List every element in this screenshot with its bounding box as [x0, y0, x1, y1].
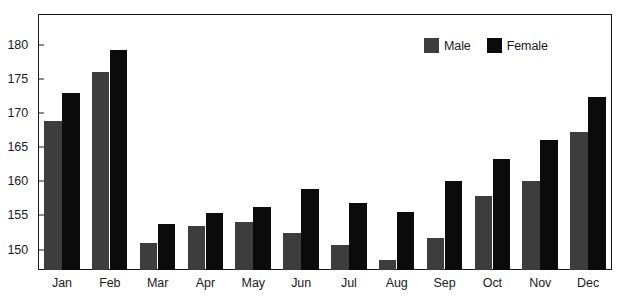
y-tick-mark [38, 249, 44, 250]
bar-sep-male [427, 238, 445, 270]
bar-may-male [235, 222, 253, 270]
bar-mar-female [158, 224, 176, 270]
bar-oct-male [475, 196, 493, 270]
x-tick-label: Mar [147, 276, 168, 290]
bar-nov-female [540, 140, 558, 270]
y-tick-label: 180 [7, 38, 28, 52]
bar-jul-male [331, 245, 349, 270]
bar-feb-male [92, 72, 110, 270]
bar-may-female [253, 207, 271, 270]
bar-group [86, 14, 134, 270]
legend-label-female: Female [507, 39, 548, 53]
x-tick-label: Nov [529, 276, 551, 290]
y-tick-mark [38, 215, 44, 216]
legend-item-female: Female [487, 38, 548, 53]
x-tick-label: Aug [386, 276, 408, 290]
legend-item-male: Male [424, 38, 471, 53]
bar-group [564, 14, 612, 270]
y-tick-label: 155 [7, 208, 28, 222]
bar-jan-male [44, 121, 62, 270]
bar-jun-female [301, 189, 319, 270]
y-tick-label: 150 [7, 243, 28, 257]
legend-label-male: Male [444, 39, 471, 53]
x-tick-label: Oct [483, 276, 502, 290]
bar-group [134, 14, 182, 270]
bar-jan-female [62, 93, 80, 270]
bar-sep-female [445, 181, 463, 270]
bar-dec-male [570, 132, 588, 270]
y-tick-mark [38, 147, 44, 148]
x-tick-label: Feb [99, 276, 120, 290]
legend: Male Female [424, 38, 548, 53]
bar-apr-male [188, 226, 206, 270]
x-tick-label: Jan [52, 276, 72, 290]
y-tick-mark [38, 112, 44, 113]
x-tick-label: Apr [196, 276, 215, 290]
bar-feb-female [110, 50, 128, 270]
bar-jul-female [349, 203, 367, 270]
bar-group [38, 14, 86, 270]
x-tick-label: May [242, 276, 265, 290]
x-tick-label: Dec [577, 276, 599, 290]
bar-apr-female [206, 213, 224, 270]
bar-group [373, 14, 421, 270]
bar-aug-female [397, 212, 415, 270]
y-tick-label: 175 [7, 72, 28, 86]
bar-group [325, 14, 373, 270]
bar-mar-male [140, 243, 158, 270]
x-tick-label: Sep [434, 276, 456, 290]
bar-aug-male [379, 260, 397, 270]
x-axis: JanFebMarAprMayJunJulAugSepOctNovDec [38, 270, 612, 301]
bar-nov-male [522, 181, 540, 270]
y-axis: 150155160165170175180 [0, 0, 38, 301]
y-tick-label: 165 [7, 140, 28, 154]
y-tick-mark [38, 44, 44, 45]
bar-group [229, 14, 277, 270]
y-tick-label: 160 [7, 174, 28, 188]
male-swatch-icon [424, 38, 439, 53]
female-swatch-icon [487, 38, 502, 53]
y-tick-label: 170 [7, 106, 28, 120]
x-tick-label: Jul [341, 276, 357, 290]
bar-dec-female [588, 97, 606, 270]
bar-jun-male [283, 233, 301, 270]
y-tick-mark [38, 181, 44, 182]
bar-chart: 150155160165170175180 JanFebMarAprMayJun… [0, 0, 631, 301]
bar-group [182, 14, 230, 270]
y-tick-mark [38, 78, 44, 79]
bar-oct-female [493, 159, 511, 270]
bar-group [277, 14, 325, 270]
x-tick-label: Jun [291, 276, 311, 290]
